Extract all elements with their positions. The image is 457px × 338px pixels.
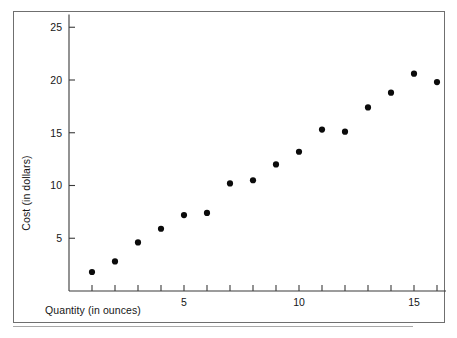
y-axis-label: Cost (in dollars) [20,118,32,268]
y-axis-tick-label: 10 [50,179,62,191]
data-point [411,71,417,77]
data-point [250,177,256,183]
data-point [296,149,302,155]
y-axis-tick-label: 15 [50,127,62,139]
data-point [342,129,348,135]
data-point [388,90,394,96]
data-point [181,212,187,218]
data-point [227,180,233,186]
plot-area: 51015202551015 Cost (in dollars) Quantit… [14,12,446,324]
data-point [365,104,371,110]
x-axis-tick-label: 15 [408,296,420,308]
data-point [112,258,118,264]
y-axis-tick-label: 5 [56,232,62,244]
data-point [158,226,164,232]
data-point [319,126,325,132]
data-point [434,79,440,85]
scan-artifact-underline [13,326,413,327]
y-axis-tick-label: 25 [50,21,62,33]
data-point [204,210,210,216]
x-axis-label: Quantity (in ounces) [45,304,141,316]
figure-frame: 51015202551015 Cost (in dollars) Quantit… [13,11,445,323]
scatter-plot: 51015202551015 [14,12,446,324]
data-point [135,239,141,245]
x-axis-tick-label: 5 [181,296,187,308]
data-point [89,269,95,275]
y-axis-tick-label: 20 [50,74,62,86]
data-point [273,161,279,167]
x-axis-tick-label: 10 [293,296,305,308]
